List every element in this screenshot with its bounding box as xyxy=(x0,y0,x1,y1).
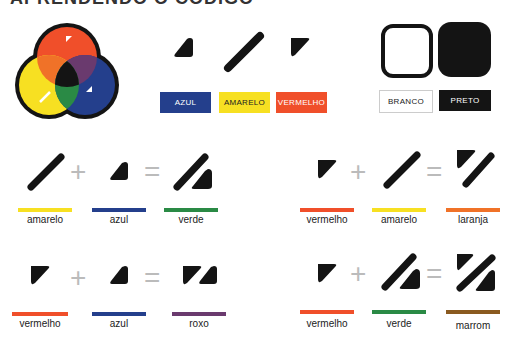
label: amarelo xyxy=(5,214,85,225)
plus-operator: + xyxy=(350,258,366,290)
swatch-amarelo: AMARELO xyxy=(219,92,270,113)
label: azul xyxy=(79,318,159,329)
eq2-result-icon xyxy=(454,148,496,190)
swatch-vermelho: VERMELHO xyxy=(276,92,327,113)
swatch-azul: AZUL xyxy=(160,92,211,113)
eq1-triangle-icon xyxy=(108,160,130,182)
plus-operator: + xyxy=(70,262,86,294)
amarelo-slash-icon xyxy=(222,30,266,74)
label: vermelho xyxy=(0,318,80,329)
page-title: APRENDENDO O CÓDIGO xyxy=(10,0,254,9)
bar-amarelo xyxy=(18,208,72,212)
label: amarelo xyxy=(359,214,439,225)
swatch-preto: PRETO xyxy=(439,90,491,111)
equals-operator: = xyxy=(144,156,160,188)
preto-square-icon xyxy=(438,22,491,77)
eq4-slash-icon xyxy=(380,252,424,292)
color-wheel-venn xyxy=(14,22,120,122)
equals-operator: = xyxy=(426,156,442,188)
label: roxo xyxy=(159,318,239,329)
eq3-triangle-icon xyxy=(28,264,52,286)
plus-operator: + xyxy=(70,156,86,188)
vermelho-triangle-icon xyxy=(288,36,312,58)
eq4-triangle-icon xyxy=(315,262,339,284)
eq1-slash-icon xyxy=(26,152,66,192)
branco-square-icon xyxy=(381,24,433,78)
label: vermelho xyxy=(287,318,367,329)
label: marrom xyxy=(433,320,513,331)
bar-vermelho xyxy=(300,208,354,212)
equals-operator: = xyxy=(144,262,160,294)
bar-amarelo xyxy=(372,208,426,212)
label: laranja xyxy=(433,214,513,225)
eq2-triangle-icon xyxy=(315,158,339,180)
bar-marrom xyxy=(446,310,500,314)
plus-operator: + xyxy=(350,156,366,188)
bar-vermelho xyxy=(300,310,354,314)
label: vermelho xyxy=(287,214,367,225)
label: azul xyxy=(79,214,159,225)
bar-laranja xyxy=(446,208,500,212)
eq1-result-icon xyxy=(172,152,216,192)
bar-vermelho xyxy=(12,312,68,316)
equals-operator: = xyxy=(426,258,442,290)
eq2-slash-icon xyxy=(382,150,422,190)
label: verde xyxy=(151,214,231,225)
eq3-result-icon xyxy=(180,264,220,286)
eq4-result-icon xyxy=(454,252,498,294)
swatch-branco: BRANCO xyxy=(379,90,433,113)
bar-verde xyxy=(372,310,426,314)
bar-azul xyxy=(92,312,146,316)
eq3-triangle-icon xyxy=(108,264,130,286)
bar-azul xyxy=(92,208,146,212)
label: verde xyxy=(359,318,439,329)
bar-roxo xyxy=(172,312,226,316)
bar-verde xyxy=(164,208,218,212)
azul-triangle-icon xyxy=(172,36,194,58)
